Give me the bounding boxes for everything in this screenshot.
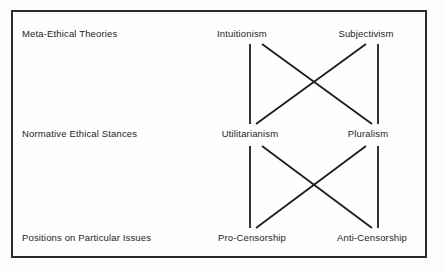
- diagram-root: Meta-Ethical Theories Normative Ethical …: [0, 0, 444, 274]
- node-utilitarianism: Utilitarianism: [222, 129, 278, 139]
- node-subjectivism: Subjectivism: [338, 29, 393, 39]
- node-anti-censorship: Anti-Censorship: [337, 233, 407, 243]
- row-label-normative-ethical-stances: Normative Ethical Stances: [22, 129, 137, 139]
- row-label-positions-on-particular-issues: Positions on Particular Issues: [22, 233, 151, 243]
- node-pro-censorship: Pro-Censorship: [218, 233, 286, 243]
- row-label-meta-ethical-theories: Meta-Ethical Theories: [22, 29, 117, 39]
- node-intuitionism: Intuitionism: [217, 29, 267, 39]
- node-pluralism: Pluralism: [348, 129, 388, 139]
